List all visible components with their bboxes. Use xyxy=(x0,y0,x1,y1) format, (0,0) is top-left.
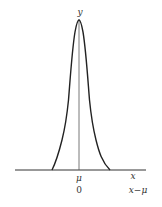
mu-label: μ xyxy=(76,173,82,183)
zero-label: 0 xyxy=(76,185,82,195)
distribution-diagram: y μ 0 x x−μ xyxy=(0,0,162,207)
x-axis-label: x xyxy=(130,171,135,181)
y-axis-label: y xyxy=(76,7,83,17)
bell-curve xyxy=(52,20,110,170)
x-minus-mu-label: x−μ xyxy=(129,185,148,195)
